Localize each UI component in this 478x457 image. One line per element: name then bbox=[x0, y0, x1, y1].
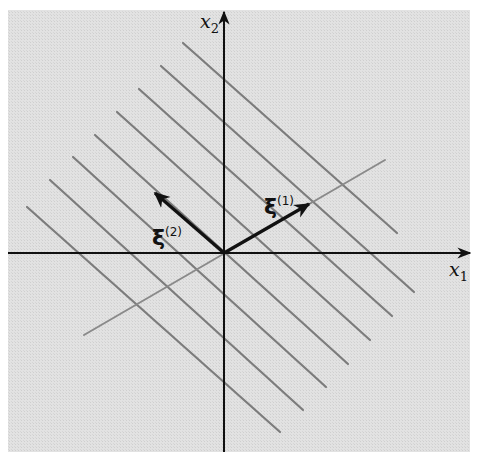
x2-axis-label: x2 bbox=[200, 12, 219, 35]
xi2-symbol: ξ bbox=[152, 225, 165, 250]
x1-axis-label: x1 bbox=[449, 260, 468, 283]
x1-label-base: x bbox=[449, 258, 460, 280]
diagram-canvas bbox=[0, 0, 478, 457]
xi1-vector-label: ξ(1) bbox=[264, 195, 294, 218]
plot-background bbox=[8, 10, 470, 452]
xi2-superscript: (2) bbox=[165, 225, 182, 239]
x2-label-base: x bbox=[200, 10, 211, 32]
xi1-superscript: (1) bbox=[277, 194, 294, 208]
x1-label-subscript: 1 bbox=[460, 269, 468, 284]
x2-label-subscript: 2 bbox=[211, 21, 219, 36]
xi1-symbol: ξ bbox=[264, 194, 277, 219]
xi2-vector-label: ξ(2) bbox=[152, 226, 182, 249]
